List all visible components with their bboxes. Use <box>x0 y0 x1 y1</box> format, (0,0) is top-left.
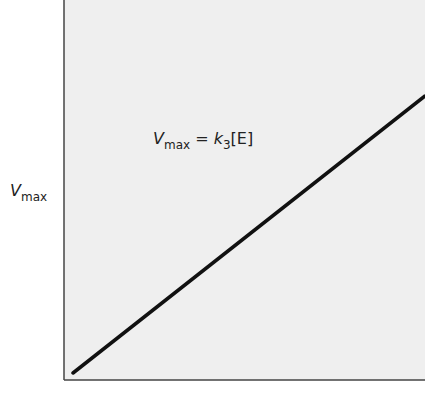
plot-area <box>64 0 425 380</box>
y-axis-label: Vmax <box>10 181 47 204</box>
vmax-vs-enzyme-chart: Vmax = k3[E] Vmax <box>0 0 425 396</box>
